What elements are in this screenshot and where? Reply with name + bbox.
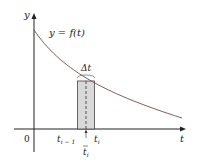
function-curve: [34, 30, 182, 118]
tick-label-t-i: ti: [94, 134, 100, 145]
x-axis-arrow-icon: [180, 127, 186, 132]
x-axis-label: t: [180, 133, 185, 144]
tick-label-t-i-star: ti: [83, 147, 89, 158]
delta-t-label: Δt: [80, 63, 91, 73]
y-axis-label: y: [23, 9, 30, 20]
origin-label: 0: [24, 134, 30, 144]
riemann-rectangle-diagram: y t 0 y = f(t) Δt ti − 1 ti ti: [0, 0, 200, 163]
curve-label: y = f(t): [48, 27, 85, 38]
tick-label-t-i-minus-1: ti − 1: [57, 134, 75, 145]
y-axis-arrow-icon: [32, 13, 37, 19]
sample-point-arrow-icon: [85, 130, 88, 134]
